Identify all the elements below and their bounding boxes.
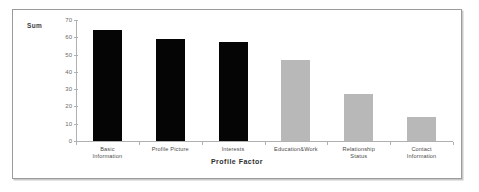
bar <box>344 94 373 141</box>
category-label: Education&Work <box>265 146 328 153</box>
x-tick-mark <box>327 142 328 145</box>
x-axis-title: Profile Factor <box>13 158 461 165</box>
category-label: Profile Picture <box>139 146 202 153</box>
bar <box>219 42 248 141</box>
category-label-line: Profile Picture <box>139 146 202 153</box>
y-axis-label: Sum <box>27 22 42 29</box>
category-label-line: Contact <box>390 146 453 153</box>
x-tick-mark <box>453 142 454 145</box>
chart-figure: Sum 010203040506070 BasicInformationProf… <box>12 9 462 179</box>
y-tick-label: 40 <box>65 69 72 75</box>
y-tick-mark <box>74 37 78 38</box>
bar <box>156 39 185 141</box>
category-label: Interests <box>202 146 265 153</box>
y-tick-label: 0 <box>69 138 72 144</box>
y-tick-label: 20 <box>65 103 72 109</box>
x-tick-mark <box>202 142 203 145</box>
y-tick-mark <box>74 20 78 21</box>
bar <box>93 30 122 141</box>
x-tick-mark <box>265 142 266 145</box>
category-label-line: Interests <box>202 146 265 153</box>
bar <box>281 60 310 141</box>
y-tick-mark <box>74 55 78 56</box>
category-label-line: Education&Work <box>265 146 328 153</box>
y-tick-label: 10 <box>65 121 72 127</box>
y-tick-label: 70 <box>65 17 72 23</box>
y-tick-mark <box>74 124 78 125</box>
category-label-line: Basic <box>76 146 139 153</box>
x-tick-mark <box>139 142 140 145</box>
y-tick-label: 30 <box>65 86 72 92</box>
x-tick-mark <box>76 142 77 145</box>
y-tick-mark <box>74 89 78 90</box>
plot-area: 010203040506070 BasicInformationProfile … <box>76 20 453 142</box>
y-tick-label: 60 <box>65 34 72 40</box>
y-tick-mark <box>74 72 78 73</box>
category-label-line: Relationship <box>327 146 390 153</box>
y-tick-mark <box>74 106 78 107</box>
x-tick-mark <box>390 142 391 145</box>
y-tick-label: 50 <box>65 52 72 58</box>
bar <box>407 117 436 141</box>
